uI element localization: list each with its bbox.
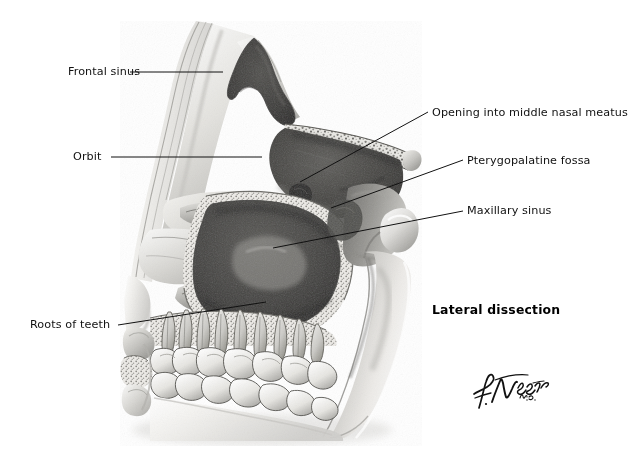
label-orbit-text: Orbit [73, 150, 102, 163]
label-opening-into-middle-nasal-meatus-text: Opening into middle nasal meatus [432, 106, 628, 119]
label-roots-of-teeth: Roots of teeth [30, 319, 110, 330]
label-maxillary-sinus-text: Maxillary sinus [467, 204, 552, 217]
label-orbit: Orbit [73, 151, 102, 162]
label-roots-of-teeth-text: Roots of teeth [30, 318, 110, 331]
label-frontal-sinus-text: Frontal sinus [68, 65, 140, 78]
label-maxillary-sinus: Maxillary sinus [467, 205, 552, 216]
figure-caption: Lateral dissection [432, 302, 560, 317]
label-frontal-sinus: Frontal sinus [68, 66, 140, 77]
skull-specimen [120, 21, 421, 446]
label-opening-into-middle-nasal-meatus: Opening into middle nasal meatus [432, 107, 628, 118]
label-pterygopalatine-fossa: Pterygopalatine fossa [467, 155, 591, 166]
artist-signature-mark [474, 375, 548, 408]
label-pterygopalatine-fossa-text: Pterygopalatine fossa [467, 154, 591, 167]
anterior-maxilla-incisive [120, 328, 154, 417]
